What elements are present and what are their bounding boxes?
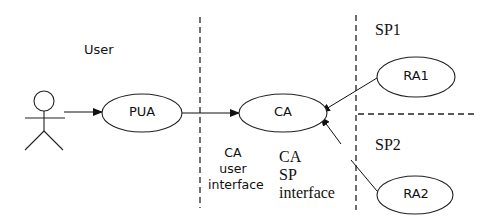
- node-label-pua: PUA: [112, 104, 172, 119]
- region-label-sp2: SP2: [375, 136, 401, 154]
- interface-label-ca-user: CA user interface: [208, 145, 258, 193]
- node-label-ra2: RA2: [386, 186, 446, 201]
- user-actor-icon: [25, 91, 65, 150]
- region-label-sp1: SP1: [375, 21, 401, 39]
- interface-label-ca-sp: CA SP interface: [279, 148, 335, 202]
- node-label-ra1: RA1: [386, 68, 446, 83]
- diagram-canvas: User SP1 SP2 PUA CA RA1 RA2 CA user inte…: [0, 0, 497, 221]
- edge-ra1-ca: [321, 78, 377, 112]
- node-label-ca: CA: [253, 104, 313, 119]
- edge-ra2-ca: [321, 117, 341, 144]
- region-label-user: User: [84, 42, 114, 57]
- edge-ra2-ca-segment: [351, 160, 377, 191]
